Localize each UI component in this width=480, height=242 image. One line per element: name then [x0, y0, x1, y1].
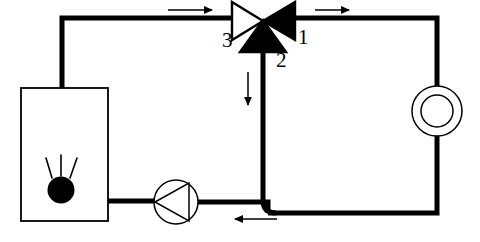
pipe-exchanger-to-return: [268, 136, 437, 213]
pipe-boiler-to-valve: [62, 18, 240, 92]
hydronic-circuit-diagram: [0, 0, 480, 242]
three-way-mixing-valve: [232, 2, 295, 52]
valve-port-2-label: 2: [276, 50, 287, 71]
heat-exchanger-inner-circle: [421, 95, 453, 127]
circulation-pump: [154, 180, 198, 224]
pipe-bypass-branch: [263, 46, 276, 213]
burner-flame-core: [48, 177, 75, 204]
schematic-canvas: 3 1 2: [0, 0, 480, 242]
valve-port-3-label: 3: [222, 30, 233, 51]
heat-exchanger-load: [412, 86, 462, 136]
valve-port-1-label: 1: [298, 27, 309, 48]
pipe-pump-to-junction: [197, 202, 268, 213]
pipe-valve-to-exchanger: [288, 18, 437, 86]
